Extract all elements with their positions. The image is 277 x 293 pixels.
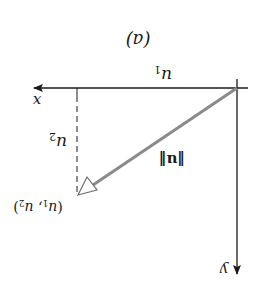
vector-norm-label: ‖u‖ xyxy=(159,151,185,169)
vector-arrowhead-icon xyxy=(78,177,97,195)
u2-label: u2 xyxy=(49,130,67,153)
y-axis-label: y xyxy=(219,261,229,279)
vector-u xyxy=(90,88,237,187)
x-axis-label: x xyxy=(32,92,41,110)
figure-caption: (a) xyxy=(126,30,151,51)
endpoint-label: (u1, u2) xyxy=(13,198,62,216)
u1-label: u1 xyxy=(154,63,172,86)
vector-diagram: (a) u1 x u2 ‖u‖ (u1, u2) xyxy=(0,0,277,293)
upside-down-figure: (a) u1 x u2 ‖u‖ (u1, u2) xyxy=(13,30,248,279)
